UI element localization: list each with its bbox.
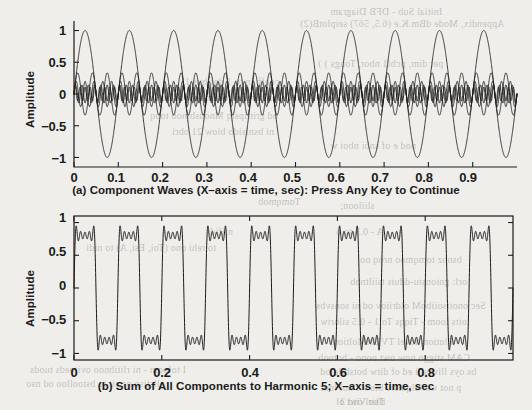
panel-b-xtick-02: 0.2 [146,365,178,380]
panel-a-caption: (a) Component Waves (X–axis = time, sec)… [0,184,532,196]
panel-b-ytick-m1: −1 [31,346,66,361]
matlab-figure: Amplitude 1 0.5 0 −0.5 −1 0 0.1 0.2 0.3 … [0,0,532,410]
panel-a-xtick-0: 0 [58,170,90,185]
panel-b-xtick-04: 0.4 [234,365,266,380]
panel-a-xtick-03: 0.3 [188,170,220,185]
panel-b-ytick-05: 0.5 [31,244,66,259]
panel-a-component-waves: Amplitude 1 0.5 0 −0.5 −1 0 0.1 0.2 0.3 … [0,0,532,198]
panel-a-xtick-06: 0.6 [320,170,352,185]
panel-a-ytick-05: 0.5 [31,55,66,70]
panel-b-xtick-08: 0.8 [410,365,442,380]
panel-a-xtick-02: 0.2 [144,170,176,185]
panel-a-xtick-04: 0.4 [232,170,264,185]
panel-a-xtick-01: 0.1 [100,170,132,185]
panel-a-plot [0,0,532,198]
panel-b-xtick-06: 0.6 [322,365,354,380]
sum-waveform [74,226,513,350]
panel-a-ytick-m1: −1 [31,151,66,166]
panel-a-ytick-1: 1 [38,23,66,38]
panel-b-ytick-0: 0 [38,278,66,293]
panel-b-sum-of-components: Amplitude 1 0.5 0 −0.5 −1 0 0.2 0.4 0.6 … [0,205,532,410]
panel-b-xtick-0: 0 [58,365,90,380]
component-wave-harmonic-9 [74,87,517,101]
panel-a-xtick-05: 0.5 [276,170,308,185]
panel-a-ytick-0: 0 [38,87,66,102]
panel-a-xtick-09: 0.9 [452,170,484,185]
panel-b-ytick-1: 1 [38,210,66,225]
panel-a-xtick-08: 0.8 [408,170,440,185]
panel-a-xtick-07: 0.7 [364,170,396,185]
panel-a-ytick-m05: −0.5 [24,119,66,134]
panel-b-caption: (b) Sum of All Components to Harmonic 5;… [0,380,532,392]
panel-b-ytick-m05: −0.5 [24,312,66,327]
